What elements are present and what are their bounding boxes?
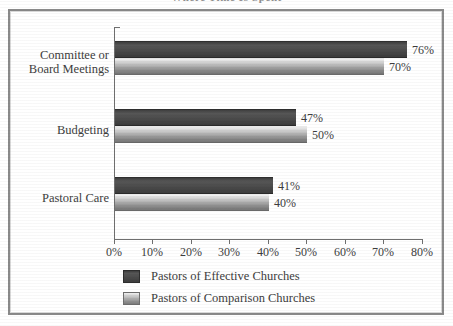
- x-axis-tick: [152, 239, 153, 244]
- bar-series1[interactable]: [115, 109, 296, 126]
- bar-row: 70%: [114, 58, 422, 75]
- bar-value-label: 76%: [412, 42, 434, 57]
- x-axis-tick-label: 20%: [180, 245, 202, 260]
- category-label: Budgeting: [5, 123, 109, 137]
- category-label-line: Budgeting: [5, 123, 109, 137]
- x-axis-tick: [229, 239, 230, 244]
- category-label-line: Committee or: [5, 48, 109, 62]
- x-axis-tick-label: 60%: [334, 245, 356, 260]
- category-label-line: Pastoral Care: [5, 191, 109, 205]
- bar-value-label: 40%: [274, 195, 296, 210]
- x-axis-tick: [306, 239, 307, 244]
- x-axis-tick: [422, 239, 423, 244]
- x-axis-tick: [114, 239, 115, 244]
- bar-row: 40%: [114, 194, 422, 211]
- x-axis-tick: [345, 239, 346, 244]
- legend-label: Pastors of Effective Churches: [151, 269, 300, 284]
- bar-series2[interactable]: [115, 126, 307, 143]
- category-group: Budgeting 47% 50%: [114, 109, 422, 143]
- legend-item-effective-churches[interactable]: Pastors of Effective Churches: [123, 267, 315, 286]
- category-group: Pastoral Care 41% 40%: [114, 177, 422, 211]
- legend-item-comparison-churches[interactable]: Pastors of Comparison Churches: [123, 289, 315, 308]
- x-axis-tick-label: 80%: [411, 245, 433, 260]
- x-axis-tick-label: 40%: [257, 245, 279, 260]
- chart-title-strip: Where Time Is Spent: [0, 0, 453, 6]
- bar-value-label: 41%: [278, 178, 300, 193]
- bar-series1[interactable]: [115, 41, 407, 58]
- bar-row: 50%: [114, 126, 422, 143]
- x-axis-tick-label: 10%: [141, 245, 163, 260]
- bar-row: 47%: [114, 109, 422, 126]
- y-axis-top-tick: [114, 27, 120, 28]
- bar-row: 76%: [114, 41, 422, 58]
- x-axis-tick: [268, 239, 269, 244]
- plot-area: Committee or Board Meetings 76% 70% Budg…: [114, 27, 422, 239]
- bar-series1[interactable]: [115, 177, 273, 194]
- bar-series2[interactable]: [115, 58, 384, 75]
- legend-swatch-icon: [123, 270, 140, 283]
- category-group: Committee or Board Meetings 76% 70%: [114, 41, 422, 75]
- bar-value-label: 47%: [301, 110, 323, 125]
- x-axis-tick: [191, 239, 192, 244]
- chart-frame: Committee or Board Meetings 76% 70% Budg…: [8, 9, 444, 315]
- category-label: Committee or Board Meetings: [5, 48, 109, 76]
- x-axis-tick-label: 50%: [295, 245, 317, 260]
- bar-value-label: 50%: [312, 127, 334, 142]
- category-label: Pastoral Care: [5, 191, 109, 205]
- category-label-line: Board Meetings: [5, 62, 109, 76]
- x-axis-tick-label: 0%: [106, 245, 122, 260]
- bar-value-label: 70%: [389, 59, 411, 74]
- legend-label: Pastors of Comparison Churches: [151, 291, 315, 306]
- bar-series2[interactable]: [115, 194, 269, 211]
- chart-title: Where Time Is Spent: [0, 0, 453, 3]
- chart-legend: Pastors of Effective Churches Pastors of…: [123, 267, 315, 311]
- x-axis-tick: [383, 239, 384, 244]
- x-axis-tick-label: 70%: [372, 245, 394, 260]
- x-axis-tick-label: 30%: [218, 245, 240, 260]
- legend-swatch-icon: [123, 292, 140, 305]
- bar-row: 41%: [114, 177, 422, 194]
